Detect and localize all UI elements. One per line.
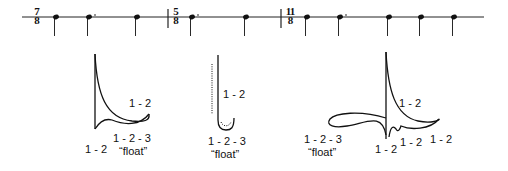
time-signature-7-8: 7 8	[32, 7, 42, 25]
note	[303, 14, 310, 36]
note	[133, 14, 140, 36]
conducting-gesture-7-8	[95, 54, 149, 129]
float-label: “float”	[211, 148, 239, 160]
beat-label: 1 - 2	[430, 133, 452, 145]
notation-diagram	[0, 0, 508, 171]
note	[242, 14, 249, 36]
time-signature-denominator: 8	[32, 16, 42, 25]
time-signature-denominator: 8	[171, 16, 181, 25]
beat-label: 1 - 2 - 3	[208, 135, 246, 147]
time-signature-denominator: 8	[284, 16, 296, 25]
note	[417, 14, 424, 36]
beat-label: 1 - 2	[399, 97, 421, 109]
note	[385, 14, 392, 36]
note	[52, 14, 59, 36]
beat-label: 1 - 2	[85, 143, 107, 155]
beat-label: 1 - 2 - 3	[113, 132, 151, 144]
beat-label: 1 - 2	[223, 88, 245, 100]
beat-label: 1 - 2	[129, 97, 151, 109]
beat-label: 1 - 2	[400, 136, 422, 148]
beat-label: 1 - 2 - 3	[304, 133, 342, 145]
float-label: “float”	[308, 146, 336, 158]
time-signature-5-8: 5 8	[171, 7, 181, 25]
time-signature-11-8: 11 8	[284, 7, 296, 25]
conducting-gesture-11-8	[329, 52, 439, 139]
float-label: “float”	[119, 145, 147, 157]
beat-label: 1 - 2	[375, 143, 397, 155]
note	[450, 14, 457, 36]
